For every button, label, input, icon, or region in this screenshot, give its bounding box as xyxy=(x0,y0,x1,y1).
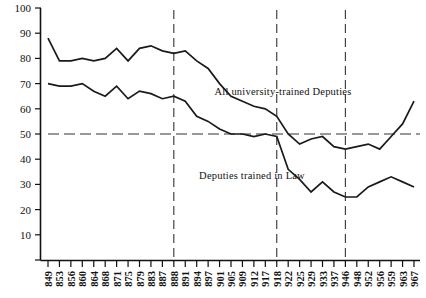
line-chart: 102030405060708090100 849853856860864868… xyxy=(0,0,426,298)
x-axis: 8498538568608648688718758798838878888918… xyxy=(41,260,421,287)
x-tick-label: 917 xyxy=(260,271,271,287)
x-tick-label: 856 xyxy=(66,271,77,287)
reference-lines xyxy=(48,10,420,260)
x-tick-label: 864 xyxy=(89,270,100,287)
x-tick-label: 860 xyxy=(77,271,88,287)
y-tick-label: 50 xyxy=(20,128,32,140)
y-tick-label: 20 xyxy=(20,204,32,216)
y-tick-label: 90 xyxy=(20,27,32,39)
x-tick-label: 925 xyxy=(295,271,306,287)
x-tick-label: 887 xyxy=(157,271,168,287)
x-tick-label: 948 xyxy=(352,271,363,287)
x-tick-label: 933 xyxy=(318,271,329,287)
x-tick-label: 967 xyxy=(409,271,420,287)
y-tick-label: 70 xyxy=(20,78,32,90)
x-tick-label: 956 xyxy=(375,271,386,287)
x-tick-labels: 8498538568608648688718758798838878888918… xyxy=(43,270,420,287)
y-tick-label: 60 xyxy=(20,103,32,115)
x-tick-label: 888 xyxy=(169,271,180,287)
x-tick-label: 912 xyxy=(249,271,260,287)
x-tick-label: 918 xyxy=(272,271,283,287)
x-tick-label: 937 xyxy=(329,271,340,287)
x-tick-label: 879 xyxy=(135,271,146,287)
x-tick-label: 901 xyxy=(215,271,226,287)
y-axis: 102030405060708090100 xyxy=(15,2,42,260)
x-tick-label: 952 xyxy=(363,271,374,287)
x-tick-label: 891 xyxy=(180,271,191,287)
x-tick-label: 849 xyxy=(43,271,54,287)
x-tick-label: 922 xyxy=(283,271,294,287)
chart-container: 102030405060708090100 849853856860864868… xyxy=(0,0,426,298)
x-tick-label: 894 xyxy=(192,270,203,287)
x-tick-label: 875 xyxy=(123,271,134,287)
x-tick-label: 963 xyxy=(398,271,409,287)
x-tick-label: 905 xyxy=(226,271,237,287)
x-tick-label: 868 xyxy=(100,271,111,287)
x-tick-label: 959 xyxy=(386,271,397,287)
x-tick-label: 897 xyxy=(203,271,214,287)
series-annotation-1: All university-trained Deputies xyxy=(215,86,352,97)
y-tick-label: 40 xyxy=(20,153,32,165)
x-tick-label: 853 xyxy=(54,271,65,287)
x-tick-label: 883 xyxy=(146,271,157,287)
y-tick-label: 30 xyxy=(20,178,32,190)
x-tick-label: 871 xyxy=(112,271,123,287)
y-tick-label: 10 xyxy=(20,229,32,241)
x-tick-label: 946 xyxy=(340,271,351,287)
y-tick-label: 80 xyxy=(20,52,32,64)
series-annotation-2: Deputies trained in Law xyxy=(199,170,305,181)
x-tick-label: 909 xyxy=(237,271,248,287)
y-tick-labels: 102030405060708090100 xyxy=(15,2,32,241)
x-tick-label: 929 xyxy=(306,271,317,287)
y-tick-label: 100 xyxy=(15,2,32,14)
